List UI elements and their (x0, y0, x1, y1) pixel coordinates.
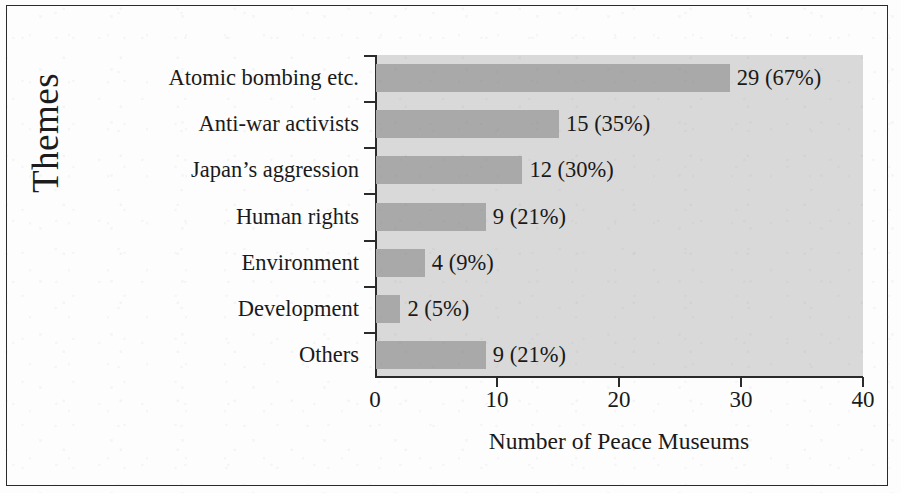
bar-value-label: 2 (5%) (407, 298, 469, 321)
x-axis-tick (862, 377, 864, 387)
x-axis-tick (496, 377, 498, 387)
y-axis-category-label: Japan’s aggression (95, 159, 359, 182)
bar-value-label: 12 (30%) (529, 159, 613, 182)
y-axis-category-label: Development (95, 298, 359, 321)
x-axis-tick-label: 30 (711, 388, 771, 411)
x-axis-tick-label: 10 (467, 388, 527, 411)
y-axis-category-label: Others (95, 344, 359, 367)
y-axis-category-label: Environment (95, 252, 359, 275)
bar (376, 64, 730, 92)
y-axis-title: Themes (24, 28, 68, 238)
y-axis-category-label: Anti-war activists (95, 113, 359, 136)
y-axis-tick (364, 193, 376, 195)
y-axis-tick (364, 147, 376, 149)
bar (376, 110, 559, 138)
bar-value-label: 29 (67%) (737, 67, 821, 90)
x-axis-tick-label: 40 (833, 388, 893, 411)
y-axis-category-labels: Atomic bombing etc.Anti-war activistsJap… (95, 55, 367, 378)
y-axis-tick (364, 240, 376, 242)
y-axis-category-label: Atomic bombing etc. (95, 67, 359, 90)
y-axis-tick (364, 101, 376, 103)
peace-museums-bar-chart-figure: Themes Atomic bombing etc.Anti-war activ… (0, 0, 901, 493)
bar-value-label: 15 (35%) (566, 113, 650, 136)
x-axis-tick-label: 0 (345, 388, 405, 411)
bar (376, 295, 400, 323)
x-axis-tick (618, 377, 620, 387)
x-axis-title: Number of Peace Museums (375, 430, 863, 454)
x-axis-tick (740, 377, 742, 387)
y-axis-tick (364, 286, 376, 288)
x-axis-tick-label: 20 (589, 388, 649, 411)
bar (376, 341, 486, 369)
y-axis-category-label: Human rights (95, 206, 359, 229)
bar (376, 156, 522, 184)
y-axis-tick (364, 332, 376, 334)
bar (376, 203, 486, 231)
bar-value-label: 4 (9%) (432, 252, 494, 275)
bar-value-label: 9 (21%) (493, 344, 566, 367)
bar-value-label: 9 (21%) (493, 206, 566, 229)
bar (376, 249, 425, 277)
y-axis-tick (364, 55, 376, 57)
plot-area: 29 (67%)15 (35%)12 (30%)9 (21%)4 (9%)2 (… (375, 55, 863, 378)
